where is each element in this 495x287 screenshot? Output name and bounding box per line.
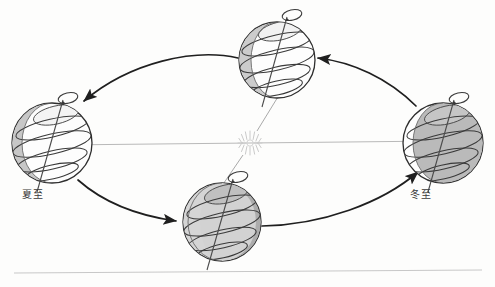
earth-bottom-rotation-arrow [227,170,249,185]
diagram-canvas [0,0,495,287]
arrow-right-to-top [318,58,416,106]
sun-rays [215,87,284,196]
earth-orbit-diagram: 夏至 冬至 [0,0,495,287]
earth-right [402,91,484,192]
earth-left-rotation-arrow [57,91,79,106]
arrow-bottom-to-right [262,172,418,226]
baseline-rule [14,270,482,273]
earth-right-rotation-arrow [448,91,470,106]
arrow-top-to-left [84,55,238,101]
earth-top [238,8,317,107]
earth-left [11,91,93,192]
earth-top-rotation-arrow [281,8,303,23]
sun-earth-axis-line [60,141,440,145]
label-winter-solstice: 冬至 [410,186,432,201]
label-summer-solstice: 夏至 [22,186,44,201]
earth-bottom [182,170,262,270]
arrow-left-to-bottom [78,180,176,221]
